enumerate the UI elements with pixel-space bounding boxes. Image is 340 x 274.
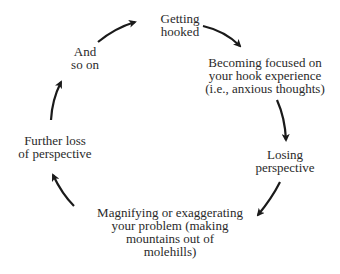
node-further-loss: Further loss of perspective [10, 134, 100, 160]
arrow-focused-to-losing [277, 100, 286, 140]
node-becoming-focused: Becoming focused on your hook experience… [190, 56, 340, 95]
node-losing-perspective: Losing perspective [250, 148, 320, 174]
arrow-losing-to-magnifying [258, 182, 280, 215]
node-getting-hooked: Getting hooked [140, 12, 220, 38]
node-magnifying: Magnifying or exaggerating your problem … [80, 206, 260, 258]
arrow-magnifying-to-further [53, 175, 74, 206]
arrow-andsoon-to-hooked [98, 22, 135, 42]
arrow-further-to-andsoon [51, 82, 61, 120]
node-and-so-on: And so on [60, 45, 110, 71]
